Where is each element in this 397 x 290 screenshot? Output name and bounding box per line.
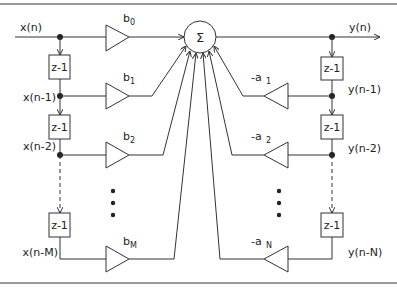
ellipsis-right: [277, 189, 281, 217]
delay-block-y2: z-1: [321, 115, 343, 139]
delay-block-x1: z-1: [49, 55, 70, 79]
delay-label: z-1: [51, 61, 68, 74]
delay-label: z-1: [324, 219, 341, 232]
delay-block-yN: z-1: [321, 213, 343, 237]
gain-subscript: N: [266, 241, 272, 250]
gain-subscript: 1: [266, 77, 271, 86]
iir-filter-diagram: Σ x(n) z-1 x(n-1) z-1 x(n-2) z-1 x(n-M) …: [0, 0, 397, 290]
gain-b0: b 0: [106, 12, 135, 51]
signal-label-xM: x(n-M): [22, 246, 58, 259]
signal-label-yN: y(n-N): [348, 246, 382, 259]
ellipsis-left: [111, 189, 115, 217]
gain-label: b: [123, 71, 130, 84]
summation-node: Σ: [184, 21, 216, 53]
signal-label-x2: x(n-2): [23, 140, 56, 153]
gain-b1: b 1: [106, 71, 135, 109]
gain-bM: b M: [106, 235, 137, 272]
gain-subscript: 2: [266, 136, 271, 145]
delay-label: z-1: [51, 219, 68, 232]
gain-label: b: [123, 130, 130, 143]
input-label: x(n): [20, 21, 42, 34]
sum-input-wire: [129, 46, 186, 96]
gain-b2: b 2: [106, 130, 135, 168]
gain-label: b: [123, 235, 130, 248]
delay-block-y1: z-1: [321, 57, 343, 80]
gain-subscript: M: [130, 241, 137, 250]
sum-input-wire: [129, 53, 196, 259]
signal-label-y1: y(n-1): [348, 83, 381, 96]
delay-block-x2: z-1: [49, 115, 70, 139]
signal-label-x1: x(n-1): [23, 91, 56, 104]
gain-label: -a: [251, 235, 262, 248]
gain-subscript: 2: [130, 136, 135, 145]
delay-label: z-1: [51, 121, 68, 134]
delay-label: z-1: [324, 62, 341, 75]
output-label: y(n): [349, 21, 371, 34]
gain-subscript: 1: [130, 77, 135, 86]
gain-aN: -a N: [251, 235, 288, 272]
gain-label: -a: [251, 130, 262, 143]
gain-subscript: 0: [130, 18, 135, 27]
gain-a1: -a 1: [251, 71, 288, 109]
delay-block-xM: z-1: [49, 213, 70, 237]
gain-label: b: [123, 12, 130, 25]
delay-label: z-1: [324, 121, 341, 134]
sigma-symbol: Σ: [196, 30, 204, 45]
sum-input-wire: [129, 51, 190, 155]
gain-label: -a: [251, 71, 262, 84]
gain-a2: -a 2: [251, 130, 288, 168]
signal-label-y2: y(n-2): [348, 142, 381, 155]
